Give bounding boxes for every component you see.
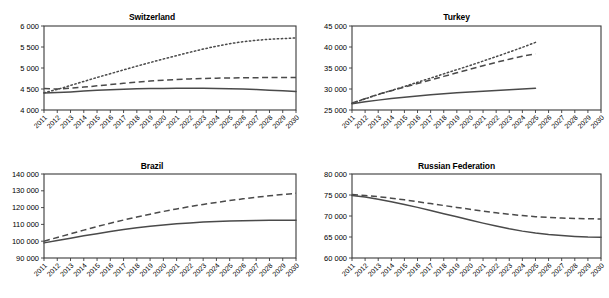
x-tick-label: 2023 (498, 262, 514, 278)
series-line-solid (44, 220, 296, 243)
x-tick-label: 2025 (524, 262, 540, 278)
y-tick-label: 130 000 (12, 186, 39, 195)
panel-russian-federation: Russian Federation 60 00065 00070 00075 … (304, 150, 609, 298)
x-tick-label: 2022 (178, 262, 194, 278)
x-tick-label: 2017 (419, 114, 435, 130)
x-tick-label: 2030 (589, 262, 605, 278)
x-tick-label: 2019 (445, 262, 461, 278)
x-tick-label: 2013 (59, 114, 75, 130)
series-line-solid (352, 195, 601, 237)
y-tick-label: 5 500 (20, 43, 39, 52)
y-tick-label: 40 000 (324, 43, 347, 52)
x-tick-label: 2019 (138, 114, 154, 130)
x-tick-label: 2024 (205, 262, 221, 278)
series-line-dashed (44, 77, 296, 89)
y-tick-label: 4 000 (20, 106, 39, 115)
series-line-dashed (352, 195, 601, 219)
x-tick-label: 2026 (537, 262, 553, 278)
x-tick-label: 2030 (284, 114, 300, 130)
x-tick-label: 2019 (138, 262, 154, 278)
plot-brazil: 90 000100 000110 000120 000130 000140 00… (0, 150, 304, 298)
x-tick-label: 2021 (471, 114, 487, 130)
x-tick-label: 2029 (576, 114, 592, 130)
x-tick-label: 2020 (152, 114, 168, 130)
x-tick-label: 2027 (244, 114, 260, 130)
x-tick-label: 2020 (458, 114, 474, 130)
x-tick-label: 2028 (258, 262, 274, 278)
x-tick-label: 2027 (550, 114, 566, 130)
x-tick-label: 2016 (406, 114, 422, 130)
y-tick-label: 120 000 (12, 203, 39, 212)
y-tick-label: 6 000 (20, 22, 39, 31)
x-tick-label: 2020 (152, 262, 168, 278)
x-tick-label: 2028 (563, 114, 579, 130)
x-tick-label: 2015 (393, 114, 409, 130)
y-tick-label: 110 000 (12, 220, 39, 229)
x-tick-label: 2024 (205, 114, 221, 130)
x-tick-label: 2026 (537, 114, 553, 130)
plot-svg-switzerland: 4 0004 5005 0005 5006 000201120122013201… (0, 0, 304, 150)
x-tick-label: 2021 (471, 262, 487, 278)
plot-svg-turkey: 25 00030 00035 00040 00045 0002011201220… (304, 0, 609, 150)
x-tick-label: 2026 (231, 262, 247, 278)
x-tick-label: 2014 (72, 114, 88, 130)
series-line-solid (352, 88, 535, 104)
x-tick-label: 2027 (244, 262, 260, 278)
series-line-dashed (44, 193, 296, 241)
x-tick-label: 2029 (576, 262, 592, 278)
x-tick-label: 2016 (406, 262, 422, 278)
plot-turkey: 25 00030 00035 00040 00045 0002011201220… (304, 0, 609, 150)
x-tick-label: 2022 (484, 262, 500, 278)
y-tick-label: 35 000 (324, 64, 347, 73)
y-tick-label: 5 000 (20, 64, 39, 73)
plot-russian-federation: 60 00065 00070 00075 00080 0002011201220… (304, 150, 609, 298)
x-tick-label: 2016 (99, 114, 115, 130)
y-tick-label: 70 000 (324, 212, 347, 221)
panel-switzerland: Switzerland 4 0004 5005 0005 5006 000201… (0, 0, 304, 150)
y-tick-label: 140 000 (12, 170, 39, 179)
x-tick-label: 2028 (563, 262, 579, 278)
x-tick-label: 2017 (112, 262, 128, 278)
x-tick-label: 2021 (165, 262, 181, 278)
x-tick-label: 2025 (218, 262, 234, 278)
x-tick-label: 2017 (419, 262, 435, 278)
x-tick-label: 2011 (341, 262, 357, 278)
x-tick-label: 2030 (589, 114, 605, 130)
x-tick-label: 2023 (498, 114, 514, 130)
x-tick-label: 2028 (258, 114, 274, 130)
x-tick-label: 2014 (380, 262, 396, 278)
series-line-dotted (44, 38, 296, 93)
x-tick-label: 2024 (511, 114, 527, 130)
y-tick-label: 65 000 (324, 233, 347, 242)
x-tick-label: 2011 (33, 262, 49, 278)
x-tick-label: 2013 (366, 262, 382, 278)
x-tick-label: 2012 (46, 114, 62, 130)
x-tick-label: 2018 (432, 114, 448, 130)
series-line-dashed (352, 54, 535, 103)
y-tick-label: 30 000 (324, 85, 347, 94)
plot-svg-russian-federation: 60 00065 00070 00075 00080 0002011201220… (304, 150, 609, 298)
x-tick-label: 2018 (125, 262, 141, 278)
series-line-solid (44, 88, 296, 93)
plot-switzerland: 4 0004 5005 0005 5006 000201120122013201… (0, 0, 304, 150)
x-tick-label: 2018 (125, 114, 141, 130)
x-tick-label: 2013 (59, 262, 75, 278)
x-tick-label: 2020 (458, 262, 474, 278)
y-tick-label: 45 000 (324, 22, 347, 31)
y-tick-label: 75 000 (324, 191, 347, 200)
x-tick-label: 2013 (366, 114, 382, 130)
y-tick-label: 80 000 (324, 170, 347, 179)
x-tick-label: 2017 (112, 114, 128, 130)
x-tick-label: 2025 (218, 114, 234, 130)
x-tick-label: 2030 (284, 262, 300, 278)
x-tick-label: 2024 (511, 262, 527, 278)
y-tick-label: 4 500 (20, 85, 39, 94)
x-tick-label: 2012 (353, 114, 369, 130)
x-tick-label: 2022 (484, 114, 500, 130)
x-tick-label: 2015 (85, 262, 101, 278)
y-tick-label: 100 000 (12, 237, 39, 246)
x-tick-label: 2014 (72, 262, 88, 278)
x-tick-label: 2026 (231, 114, 247, 130)
x-tick-label: 2023 (191, 262, 207, 278)
x-tick-label: 2019 (445, 114, 461, 130)
